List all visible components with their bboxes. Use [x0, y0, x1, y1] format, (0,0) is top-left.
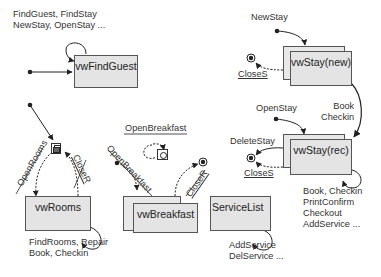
window-servicelist[interactable]: ServiceList: [210, 196, 271, 231]
window-vwfindguest[interactable]: vwFindGuest: [74, 55, 138, 88]
transition-delete-stay: DeleteStay: [230, 136, 275, 147]
service-list-actions: AddService DelService ...: [229, 240, 284, 262]
action-line: Book, Checkin: [303, 186, 362, 197]
action-line: AddService ...: [303, 219, 362, 230]
breakfast-window-icon: [157, 149, 168, 160]
action-line: PrintConfirm: [303, 197, 362, 208]
action-line: Book, Checkin: [29, 248, 108, 259]
action-line: DelService ...: [229, 251, 284, 262]
transition-line: Checkin: [321, 112, 354, 123]
find-guest-actions: FindGuest, FindStay NewStay, OpenStay ..…: [13, 9, 105, 31]
transition-new-stay: NewStay: [251, 12, 288, 23]
transition-book-checkin: Book Checkin: [321, 101, 354, 123]
action-line: Checkout: [303, 208, 362, 219]
action-line: AddService: [229, 240, 284, 251]
window-vwbreakfast[interactable]: vwBreakfast: [133, 203, 198, 233]
window-label: vwStay(new): [291, 52, 351, 68]
transition-open-breakfast-top: OpenBreakfast: [125, 123, 186, 134]
window-vwstay-rec[interactable]: vwStay(rec): [290, 139, 352, 175]
window-label: vwBreakfast: [134, 204, 197, 220]
transition-line: Book: [321, 101, 354, 112]
window-vwstay-new[interactable]: vwStay(new): [290, 51, 352, 86]
transition-open-stay: OpenStay: [256, 103, 297, 114]
overlapping-windows-icon: [51, 143, 61, 154]
transition-close-s-rec: CloseS: [244, 168, 274, 179]
window-label: vwStay(rec): [291, 140, 351, 156]
stay-rec-actions: Book, Checkin PrintConfirm Checkout AddS…: [303, 186, 362, 230]
window-label: ServiceList: [211, 197, 270, 213]
window-label: vwFindGuest: [75, 56, 137, 72]
transition-close-s-new: CloseS: [238, 69, 268, 80]
window-vwrooms[interactable]: vwRooms: [25, 196, 91, 231]
window-label: vwRooms: [26, 197, 90, 213]
action-line: NewStay, OpenStay ...: [13, 20, 105, 31]
rooms-actions: FindRooms, Repair Book, Checkin: [29, 237, 108, 259]
action-line: FindGuest, FindStay: [13, 9, 105, 20]
action-line: FindRooms, Repair: [29, 237, 108, 248]
